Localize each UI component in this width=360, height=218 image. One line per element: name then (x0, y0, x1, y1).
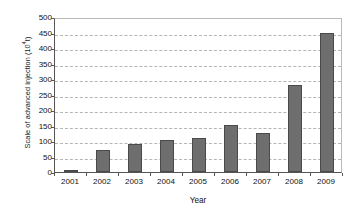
bar (256, 133, 271, 172)
plot-area (54, 18, 342, 173)
x-axis-tick-mark (246, 173, 247, 176)
y-axis-tick-label: 50 (22, 154, 52, 162)
bar (320, 33, 335, 173)
bar-chart: Scale of advanced injection (104t) 05010… (0, 0, 360, 218)
y-axis-tick-label: 300 (22, 76, 52, 84)
y-axis-tick-label: 450 (22, 30, 52, 38)
bar (160, 140, 175, 172)
y-axis-tick-label: 500 (22, 14, 52, 22)
x-axis-title: Year (54, 196, 342, 205)
bar (192, 138, 207, 172)
x-axis-tick-mark (310, 173, 311, 176)
bar (288, 85, 303, 172)
bar (96, 150, 111, 172)
bar (64, 170, 79, 172)
x-axis-tick-label: 2009 (306, 177, 346, 187)
x-axis-tick-mark (182, 173, 183, 176)
x-axis-tick-mark (342, 173, 343, 176)
y-axis-tick-label: 0 (22, 169, 52, 177)
bar (224, 125, 239, 172)
x-axis-tick-mark (86, 173, 87, 176)
y-axis-tick-label: 100 (22, 138, 52, 146)
y-axis-tick-label: 250 (22, 92, 52, 100)
x-axis-tick-mark (150, 173, 151, 176)
bar (128, 144, 143, 172)
y-axis-tick-label: 400 (22, 45, 52, 53)
x-axis-tick-mark (278, 173, 279, 176)
y-axis-tick-labels: 050100150200250300350400450500 (22, 12, 52, 174)
x-axis-tick-labels: 200120022003200420052006200720082009 (54, 177, 342, 189)
x-axis-tick-mark (118, 173, 119, 176)
y-axis-tick-label: 350 (22, 61, 52, 69)
y-axis-tick-label: 150 (22, 123, 52, 131)
x-axis-tick-mark (214, 173, 215, 176)
bars-layer (55, 19, 341, 172)
x-axis-tick-mark (54, 173, 55, 176)
y-axis-tick-label: 200 (22, 107, 52, 115)
